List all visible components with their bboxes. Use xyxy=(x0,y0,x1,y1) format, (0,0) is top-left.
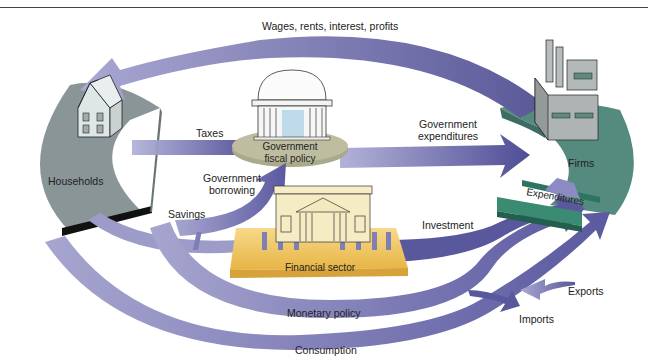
monetary-policy-label: Monetary policy xyxy=(287,307,361,319)
financial-sector-label: Financial sector xyxy=(285,262,355,274)
imports-label: Imports xyxy=(519,313,554,325)
wages-label: Wages, rents, interest, profits xyxy=(262,20,398,32)
circular-flow-diagram: Wages, rents, interest, profits Taxes Go… xyxy=(0,0,648,364)
government-fiscal-policy-label: Government fiscal policy xyxy=(254,141,326,165)
consumption-label: Consumption xyxy=(295,344,357,356)
firms-label: Firms xyxy=(568,157,594,169)
households-label: Households xyxy=(48,175,103,187)
gov-borrow-line2: borrowing xyxy=(196,184,268,196)
government-expenditures-label: Government expenditures xyxy=(408,118,488,142)
savings-label: Savings xyxy=(168,208,205,220)
gov-exp-line2: expenditures xyxy=(408,130,488,142)
taxes-label: Taxes xyxy=(196,127,223,139)
gov-line1: Government xyxy=(254,141,326,153)
investment-label: Investment xyxy=(422,219,473,231)
gov-exp-line1: Government xyxy=(408,118,488,130)
government-borrowing-label: Government borrowing xyxy=(196,172,268,196)
exports-label: Exports xyxy=(568,285,604,297)
gov-line2: fiscal policy xyxy=(254,153,326,165)
gov-borrow-line1: Government xyxy=(196,172,268,184)
factory-icon xyxy=(535,40,598,140)
